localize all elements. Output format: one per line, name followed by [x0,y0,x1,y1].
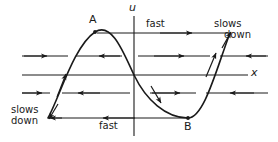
point-b-label: B [184,121,192,133]
annotation-fast-bottom: fast [99,121,118,132]
annotation-slows-down-bottom-left-line1: slows [11,105,39,116]
annotation-fast-top: fast [146,19,165,30]
annotation-slows-down-bottom-left: slows down [11,105,39,126]
point-a-marker [93,30,97,34]
annotation-slows-down-top-right-line1: slows [214,19,251,30]
curve-arrow-ascending-right [206,53,216,77]
annotation-slows-down-bottom-left-line2: down [11,116,39,127]
diagram-root: u x A B fast slows down slows down fast [0,0,278,142]
curve-direction-arrows [57,53,216,103]
annotation-slows-down-top-right-line2: down [224,30,251,41]
x-axis-label: x [251,67,258,79]
curve-arrow-ascending-left [57,74,66,97]
sinusoidal-velocity-curve [48,30,230,118]
curve-arrow-descending-mid [151,86,161,103]
u-axis-label: u [129,2,136,14]
point-a-label: A [89,14,97,26]
annotation-slows-down-top-right: slows down [214,19,251,40]
